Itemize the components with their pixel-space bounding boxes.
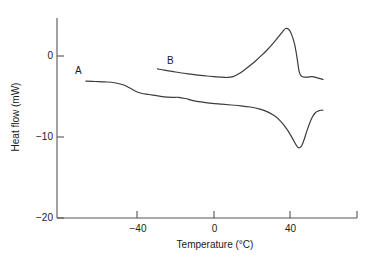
y-tick-label-0: 0 [41, 51, 53, 61]
y-tick-label-minus20: −20 [32, 213, 53, 223]
y-axis-title: Heat flow (mW) [11, 57, 21, 177]
x-axis-ticks [137, 211, 290, 218]
x-tick-label-40: 40 [281, 224, 300, 234]
chart-canvas [0, 0, 379, 260]
x-tick-label-minus40: −40 [126, 224, 150, 234]
x-axis-title: Temperature (°C) [150, 240, 280, 250]
curve-a-line [86, 81, 323, 148]
curve-a-label: A [75, 66, 82, 76]
y-tick-label-minus10: −10 [32, 132, 53, 142]
curve-b-label: B [167, 56, 174, 66]
dsc-thermogram-figure: 0 −10 −20 −40 0 40 Temperature (°C) Heat… [0, 0, 379, 260]
y-axis-ticks [57, 56, 64, 218]
x-tick-label-0: 0 [209, 224, 220, 234]
data-series-group [86, 28, 323, 148]
curve-b-line [158, 28, 323, 79]
